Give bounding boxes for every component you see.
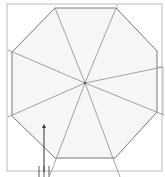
diagram-canvas [0, 0, 165, 177]
octagon-floor-plan [0, 0, 165, 177]
center-point [84, 82, 86, 84]
